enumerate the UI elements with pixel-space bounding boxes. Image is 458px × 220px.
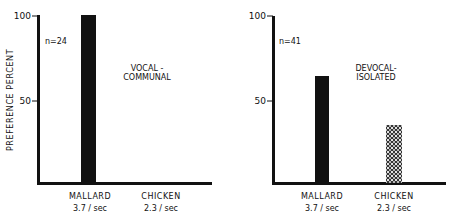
right-condition-line1: DEVOCAL- (355, 64, 396, 73)
left-y-axis (37, 15, 40, 185)
y-axis-label: PREFERENCE PERCENT (6, 49, 15, 151)
left-tick-label-100: 100 (14, 11, 31, 21)
right-condition-line2: ISOLATED (356, 73, 395, 82)
left-bar-mallard (81, 15, 96, 183)
left-x-axis (37, 182, 212, 185)
left-condition-line1: VOCAL - (131, 64, 164, 73)
figure: PREFERENCE PERCENT 100 50 n=24 VOCAL - C… (0, 0, 458, 220)
right-category-mallard: MALLARD (301, 192, 343, 201)
right-category-chicken: CHICKEN (374, 192, 413, 201)
left-panel: 100 50 n=24 VOCAL - COMMUNAL MALLARD 3.7… (14, 11, 212, 213)
left-category-mallard: MALLARD (69, 192, 111, 201)
right-x-axis (272, 182, 446, 185)
right-sample-size: n=41 (279, 37, 301, 46)
right-panel: 100 50 n=41 DEVOCAL- ISOLATED MALLARD 3.… (249, 11, 446, 213)
right-rate-chicken: 2.3 / sec (377, 204, 411, 213)
left-rate-mallard: 3.7 / sec (73, 204, 107, 213)
right-bar-mallard (315, 76, 329, 183)
left-condition-line2: COMMUNAL (123, 73, 171, 82)
right-rate-mallard: 3.7 / sec (305, 204, 339, 213)
left-tick-label-50: 50 (20, 96, 32, 106)
left-sample-size: n=24 (45, 37, 67, 46)
left-category-chicken: CHICKEN (141, 192, 180, 201)
right-tick-label-50: 50 (255, 96, 267, 106)
right-bar-chicken (386, 125, 402, 183)
right-tick-label-100: 100 (249, 11, 266, 21)
left-rate-chicken: 2.3 / sec (144, 204, 178, 213)
